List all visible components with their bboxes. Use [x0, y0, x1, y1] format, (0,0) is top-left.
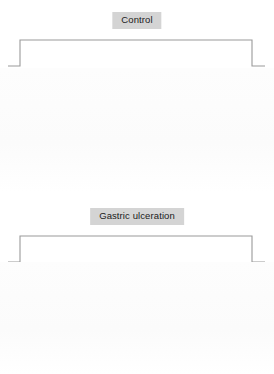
panel-gastric-ulceration: Gastric ulceration — [0, 196, 274, 374]
panel-label-control: Control — [112, 12, 161, 29]
bracket-path-gastric-ulceration — [8, 236, 265, 262]
bracket-path-control — [8, 40, 265, 66]
trace-path-control — [13, 74, 264, 173]
trace-gastric-ulceration — [0, 262, 274, 374]
panel-label-gastric-ulceration: Gastric ulceration — [90, 208, 184, 225]
scale-bracket-control — [0, 30, 274, 72]
trace-path-gastric-ulceration — [12, 269, 265, 358]
recording-figure: Control Gastric ulceration — [0, 0, 274, 374]
trace-control — [0, 68, 274, 192]
panel-control: Control — [0, 0, 274, 196]
